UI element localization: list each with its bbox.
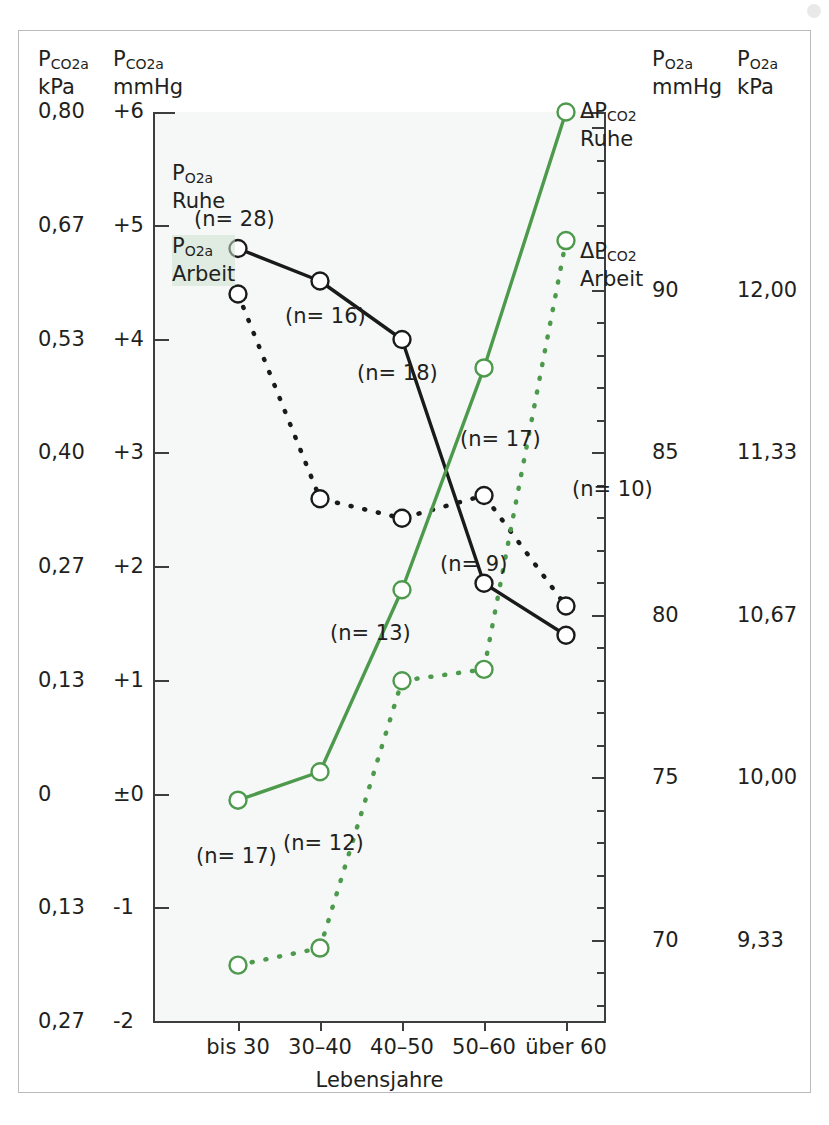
legend-dpco2-arbeit: ΔPCO2 Arbeit [580, 240, 643, 291]
data-point-marker[interactable] [230, 792, 247, 809]
legend-dpco2-arbeit-symbol: ΔP [580, 239, 607, 263]
legend-po2a-arbeit-text: Arbeit [172, 262, 235, 286]
data-point-marker[interactable] [394, 581, 411, 598]
legend-po2a-arbeit-symbol: P [172, 234, 185, 258]
legend-dpco2-arbeit-subscript: CO2 [607, 248, 637, 264]
legend-po2a-ruhe: PO2a Ruhe [172, 162, 225, 213]
legend-po2a-ruhe-subscript: O2a [185, 170, 214, 186]
data-point-marker[interactable] [558, 627, 575, 644]
data-point-marker[interactable] [558, 104, 575, 121]
data-point-marker[interactable] [230, 957, 247, 974]
series-lines-layer [0, 0, 829, 1125]
label-n9: (n= 9) [440, 553, 507, 576]
data-point-marker[interactable] [394, 331, 411, 348]
series-line-2 [238, 112, 566, 800]
figure-container: PCO2a kPa PCO2a mmHg PO2a mmHg PO2a kPa … [0, 0, 829, 1125]
data-point-marker[interactable] [476, 575, 493, 592]
data-point-marker[interactable] [558, 598, 575, 615]
data-point-marker[interactable] [312, 763, 329, 780]
label-n10: (n= 10) [572, 478, 653, 501]
data-point-marker[interactable] [312, 273, 329, 290]
data-point-marker[interactable] [312, 490, 329, 507]
label-n13: (n= 13) [330, 622, 411, 645]
legend-dpco2-ruhe-symbol: ΔP [580, 99, 607, 123]
legend-po2a-arbeit-subscript: O2a [185, 243, 214, 259]
legend-dpco2-arbeit-text: Arbeit [580, 267, 643, 291]
data-point-marker[interactable] [558, 232, 575, 249]
label-n17-green: (n= 17) [196, 845, 277, 868]
legend-po2a-arbeit: PO2a Arbeit [172, 235, 235, 286]
label-n18: (n= 18) [357, 362, 438, 385]
legend-dpco2-ruhe: ΔPCO2 Ruhe [580, 100, 637, 151]
label-n28: (n= 28) [194, 208, 275, 231]
legend-dpco2-ruhe-text: Ruhe [580, 127, 633, 151]
legend-dpco2-ruhe-subscript: CO2 [607, 108, 637, 124]
data-point-marker[interactable] [312, 940, 329, 957]
data-point-marker[interactable] [476, 661, 493, 678]
label-n16: (n= 16) [285, 305, 366, 328]
data-point-marker[interactable] [394, 510, 411, 527]
legend-po2a-ruhe-symbol: P [172, 161, 185, 185]
data-point-marker[interactable] [394, 672, 411, 689]
data-point-marker[interactable] [476, 487, 493, 504]
data-point-marker[interactable] [476, 359, 493, 376]
label-n17-black: (n= 17) [460, 428, 541, 451]
data-point-marker[interactable] [230, 286, 247, 303]
label-n12: (n= 12) [283, 832, 364, 855]
